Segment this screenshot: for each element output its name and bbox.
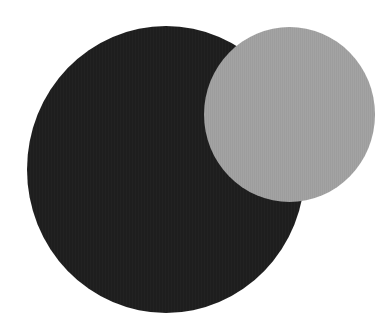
figure-canvas [0,0,383,318]
small-gray-circle [204,27,375,202]
